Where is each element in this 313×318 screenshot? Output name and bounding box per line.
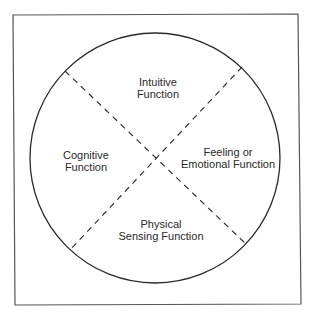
function-quadrant-diagram: Intuitive Function Cognitive Function Fe… [0, 0, 313, 318]
quadrant-cognitive-line-1: Cognitive [63, 149, 109, 161]
quadrant-feeling-line-2: Emotional Function [181, 158, 275, 170]
quadrant-intuitive-line-1: Intuitive [139, 76, 177, 88]
quadrant-physical-line-1: Physical [141, 218, 182, 230]
quadrant-intuitive: Intuitive Function [137, 76, 179, 100]
quadrant-physical-sensing: Physical Sensing Function [119, 218, 204, 242]
quadrant-physical-line-2: Sensing Function [119, 230, 204, 242]
quadrant-intuitive-line-2: Function [137, 88, 179, 100]
quadrant-cognitive: Cognitive Function [63, 149, 109, 173]
quadrant-feeling-emotional: Feeling or Emotional Function [181, 146, 275, 170]
quadrant-feeling-line-1: Feeling or [204, 146, 253, 158]
quadrant-cognitive-line-2: Function [65, 161, 107, 173]
